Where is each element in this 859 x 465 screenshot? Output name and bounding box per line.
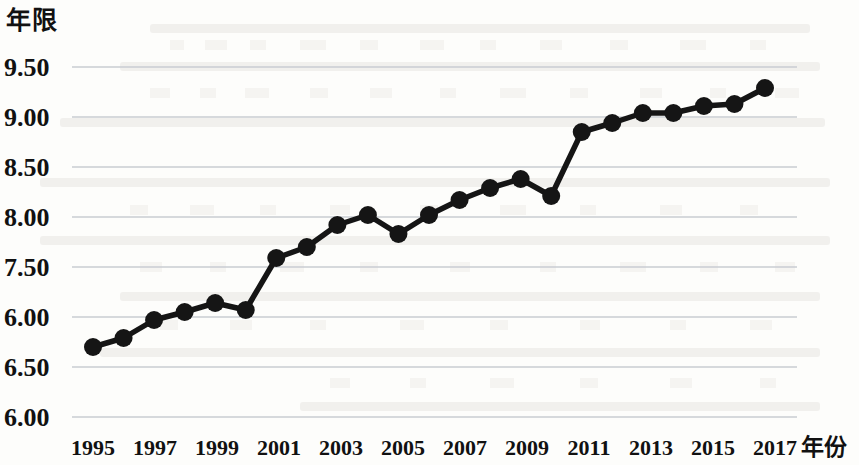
x-tick-label: 2005 [381, 437, 425, 459]
data-point: 2016: 9.13 [725, 95, 743, 113]
x-axis-caption: 年份 [801, 436, 847, 459]
data-point: 2006: 8.02 [420, 206, 438, 224]
data-point: 2001: 7.59 [267, 249, 285, 267]
data-point: 2017: 9.29 [756, 79, 774, 97]
data-point: 2008: 8.29 [481, 179, 499, 197]
x-tick-label: 2017 [753, 437, 797, 459]
data-point: 2005: 7.83 [389, 225, 407, 243]
data-point: 1999: 7.14 [206, 294, 224, 312]
data-point: 1996: 6.79 [115, 329, 133, 347]
data-point: 2002: 7.70 [298, 238, 316, 256]
data-point: 2004: 8.02 [359, 206, 377, 224]
x-tick-label: 1995 [71, 437, 115, 459]
x-tick-label: 2013 [629, 437, 673, 459]
data-point: 2009: 8.38 [512, 170, 530, 188]
x-tick-label: 2015 [691, 437, 735, 459]
x-tick-label: 2011 [568, 437, 611, 459]
x-tick-label: 2001 [257, 437, 301, 459]
data-point: 2010: 8.21 [542, 187, 560, 205]
data-point: 1997: 6.97 [145, 311, 163, 329]
data-point: 2011: 8.85 [573, 123, 591, 141]
data-point: 2015: 9.11 [695, 97, 713, 115]
gridlines [72, 67, 797, 417]
x-tick-label: 1997 [133, 437, 177, 459]
data-point: 2012: 8.94 [603, 114, 621, 132]
data-point: 2000: 7.07 [237, 301, 255, 319]
data-point: 2007: 8.17 [451, 191, 469, 209]
x-tick-label: 2007 [443, 437, 487, 459]
data-point: 2003: 7.92 [328, 216, 346, 234]
line-chart: 年限 9.50 9.00 8.50 8.00 7.50 6.00 6.50 6.… [0, 0, 859, 465]
x-tick-label: 2003 [319, 437, 363, 459]
plot-area: 1995: 6.701996: 6.791997: 6.971998: 7.05… [0, 0, 859, 465]
data-point: 1998: 7.05 [176, 303, 194, 321]
data-point: 2013: 9.04 [634, 104, 652, 122]
x-tick-label: 1999 [195, 437, 239, 459]
data-point: 2014: 9.04 [664, 104, 682, 122]
data-point: 1995: 6.70 [84, 338, 102, 356]
x-tick-label: 2009 [505, 437, 549, 459]
